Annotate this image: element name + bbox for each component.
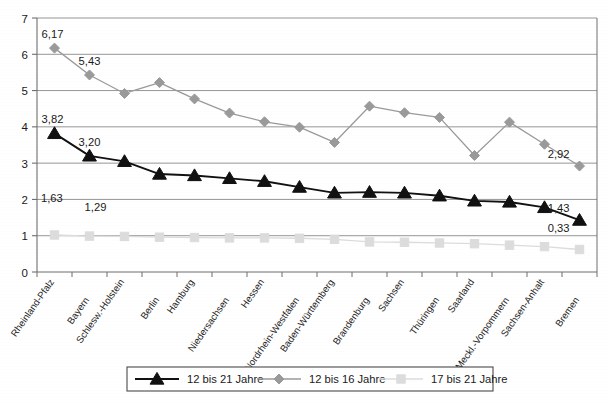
x-axis-label-12: Saarland	[445, 277, 476, 315]
line-chart: 01234567Rheinland-PfalzBayernSchlesw.-Ho…	[0, 0, 608, 403]
x-axis-label-11: Thüringen	[407, 295, 441, 337]
data-label-s0-15: 1,43	[548, 202, 570, 214]
data-label-s2-0: 1,63	[41, 192, 63, 204]
y-tick-label-6: 6	[22, 49, 28, 61]
y-tick-label-7: 7	[22, 13, 28, 25]
y-axis-ticks: 01234567	[22, 13, 37, 279]
x-axis-label-5: Niedersachsen	[185, 295, 231, 354]
series-2-point-6	[260, 234, 268, 242]
data-label-s0-0: 3,82	[42, 113, 64, 125]
x-axis-labels: Rheinland-PfalzBayernSchlesw.-HolsteinBe…	[8, 277, 581, 374]
data-label-s1-15: 2,92	[548, 148, 570, 160]
y-tick-label-2: 2	[22, 194, 28, 206]
series-2-point-13	[505, 241, 513, 249]
x-axis-label-4: Hamburg	[164, 277, 196, 316]
series-2-point-3	[155, 233, 163, 241]
legend-label-1: 12 bis 16 Jahre	[309, 373, 386, 385]
series-2-point-8	[330, 235, 338, 243]
x-axis-label-3: Berlin	[138, 295, 161, 321]
series-2-point-10	[400, 238, 408, 246]
data-label-s1-1: 5,43	[79, 55, 101, 67]
x-axis-ticks	[37, 272, 597, 277]
chart-container: 01234567Rheinland-PfalzBayernSchlesw.-Ho…	[0, 0, 608, 403]
data-label-s2-1: 1,29	[85, 201, 107, 213]
y-tick-label-5: 5	[22, 85, 28, 97]
series-2-point-15	[575, 245, 583, 253]
legend-label-2: 17 bis 21 Jahre	[431, 373, 508, 385]
legend-item-2[interactable]: 17 bis 21 Jahre	[379, 373, 508, 385]
data-label-s0-1: 3,20	[79, 136, 101, 148]
series-2-point-11	[435, 239, 443, 247]
x-axis-label-9: Brandenburg	[330, 295, 371, 347]
y-tick-label-0: 0	[22, 267, 28, 279]
series-2-point-9	[365, 238, 373, 246]
x-axis-label-6: Hessen	[238, 277, 266, 310]
series-2-point-5	[225, 234, 233, 242]
series-2-point-2	[120, 232, 128, 240]
legend-marker-2	[397, 375, 405, 383]
series-2-point-14	[540, 242, 548, 250]
legend: 12 bis 21 Jahre12 bis 16 Jahre17 bis 21 …	[127, 367, 508, 391]
series-2-point-1	[85, 232, 93, 240]
series-2-point-12	[470, 239, 478, 247]
series-2-point-0	[50, 231, 58, 239]
x-axis-label-10: Sachsen	[376, 277, 406, 314]
x-axis-label-0: Rheinland-Pfalz	[8, 277, 56, 339]
data-label-s2-15: 0,33	[548, 222, 570, 234]
y-tick-label-3: 3	[22, 158, 28, 170]
series-2-point-7	[295, 234, 303, 242]
y-tick-label-4: 4	[22, 121, 29, 133]
data-label-s1-0: 6,17	[42, 28, 64, 40]
legend-label-0: 12 bis 21 Jahre	[187, 373, 264, 385]
y-tick-label-1: 1	[22, 230, 28, 242]
series-2-point-4	[190, 233, 198, 241]
x-axis-label-15: Bremen	[553, 295, 581, 329]
